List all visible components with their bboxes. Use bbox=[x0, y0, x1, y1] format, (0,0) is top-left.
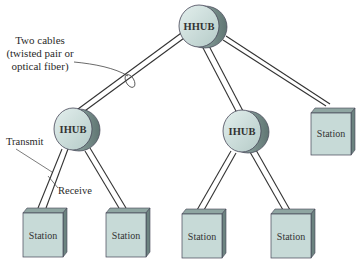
station-3: Station bbox=[182, 209, 226, 258]
hub-label: IHUB bbox=[229, 126, 256, 137]
annotation-transmit: Transmit bbox=[6, 136, 52, 172]
annotation-cables-line2: (twisted pair or bbox=[6, 47, 74, 60]
cable-ihub-left-station-2 bbox=[85, 148, 126, 208]
station-label: Station bbox=[277, 231, 305, 242]
annotation-receive-label: Receive bbox=[58, 185, 92, 196]
hub-topology-diagram: Two cables (twisted pair or optical fibe… bbox=[0, 0, 363, 264]
station-4: Station bbox=[271, 209, 315, 258]
station-label: Station bbox=[188, 231, 216, 242]
hub-label: IHUB bbox=[60, 124, 87, 135]
hub-ihub-right: IHUB bbox=[223, 110, 269, 153]
annotation-cables-line1: Two cables bbox=[15, 34, 65, 46]
cable-hhub-ihub-left bbox=[78, 28, 191, 113]
leader-line bbox=[74, 62, 128, 76]
cable-ihub-right-station-4 bbox=[250, 150, 290, 210]
cable-ihub-left-station-1 bbox=[38, 149, 68, 208]
cable-ihub-right-station-3 bbox=[197, 151, 236, 210]
hub-hhub: HHUB bbox=[179, 5, 227, 48]
leader-line bbox=[16, 149, 52, 172]
annotation-transmit-label: Transmit bbox=[6, 136, 44, 147]
station-label: Station bbox=[29, 230, 57, 241]
annotation-two-cables: Two cables (twisted pair or optical fibe… bbox=[6, 34, 137, 89]
hub-label: HHUB bbox=[184, 21, 215, 32]
station-label: Station bbox=[112, 230, 140, 241]
station-2: Station bbox=[106, 208, 150, 257]
hub-ihub-left: IHUB bbox=[54, 108, 100, 151]
leader-line bbox=[48, 176, 58, 188]
cable-hhub-station-5 bbox=[223, 36, 330, 106]
station-5: Station bbox=[311, 108, 355, 155]
annotation-cables-line3: optical fiber) bbox=[11, 60, 68, 73]
cable-hhub-ihub-right bbox=[202, 44, 243, 113]
station-label: Station bbox=[317, 128, 345, 139]
station-1: Station bbox=[23, 208, 67, 257]
